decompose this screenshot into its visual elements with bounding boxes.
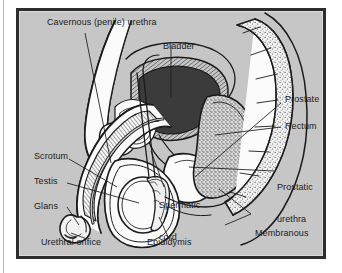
label-spermatic-cord: Spermatic cord (159, 179, 200, 259)
label-membranous-urethra-line1: Membranous (255, 228, 309, 239)
label-rectum: Rectum (285, 121, 317, 132)
page-canvas: Cavernous (penile) urethra Bladder Prost… (0, 0, 342, 273)
label-urethral-orifice: Urethral orifice (41, 237, 101, 248)
scan-edge-rule (3, 0, 4, 273)
label-layer: Cavernous (penile) urethra Bladder Prost… (19, 11, 323, 256)
label-membranous-urethra: Membranous urethra (255, 207, 309, 259)
label-prostate: Prostate (285, 94, 319, 105)
label-prostatic-urethra-line1: Prostatic (277, 182, 313, 193)
label-glans: Glans (34, 201, 58, 212)
label-testis: Testis (34, 176, 58, 187)
label-bladder: Bladder (163, 41, 195, 52)
figure-frame: Cavernous (penile) urethra Bladder Prost… (16, 8, 326, 259)
label-cavernous-urethra: Cavernous (penile) urethra (47, 17, 157, 28)
label-scrotum: Scrotum (34, 151, 68, 162)
label-spermatic-cord-line1: Spermatic (159, 200, 200, 211)
label-spermatic-cord-line2: cord (159, 232, 200, 243)
